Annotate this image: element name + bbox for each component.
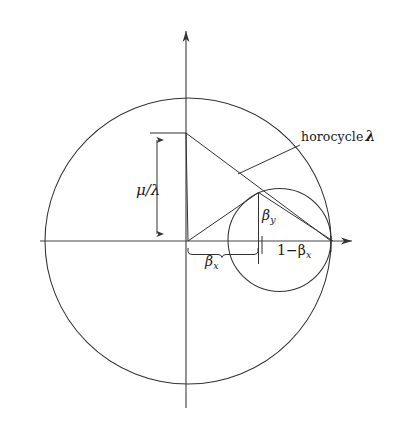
label-horocycle: horocycleλ [301,129,375,144]
label-mu-over-lambda-text: μ/λ [136,181,160,199]
brace-beta-x [188,248,258,258]
label-beta-y: βy [262,208,276,224]
label-one-minus-beta-x-base: 1−β [277,242,306,258]
figure-canvas [0,0,403,426]
label-beta-y-base: β [262,207,270,223]
label-horocycle-symbol: λ [363,128,375,144]
label-mu-over-lambda: μ/λ [136,183,160,198]
leader-line-horocycle [238,145,300,174]
horocycle-circle [228,189,331,292]
label-beta-x-subscript: x [213,260,219,271]
horocycle-figure: μ/λ βy βx 1−βx horocycleλ [0,0,403,426]
label-horocycle-text: horocycle [301,129,363,144]
label-one-minus-beta-x: 1−βx [277,243,311,259]
segment-origin-to-beta [188,193,259,242]
label-one-minus-beta-x-subscript: x [306,249,312,260]
label-beta-x: βx [205,254,219,270]
label-beta-x-base: β [205,253,213,269]
label-beta-y-subscript: y [270,214,276,225]
